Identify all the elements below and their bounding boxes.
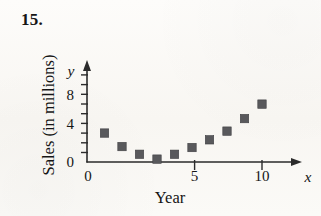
x-tick-label-5: 5 <box>191 168 199 184</box>
data-point <box>205 136 213 144</box>
y-tick-label-4: 4 <box>67 116 75 132</box>
data-point <box>258 100 266 108</box>
data-point <box>100 129 108 137</box>
data-point <box>135 150 143 158</box>
data-point <box>223 127 231 135</box>
x-tick-label-0: 0 <box>84 168 92 184</box>
y-tick-label-0: 0 <box>67 154 75 170</box>
y-tick-labels: 0 4 8 <box>67 87 75 171</box>
x-tick-labels: 0 5 10 <box>84 168 269 184</box>
x-axis-arrowhead <box>291 158 302 166</box>
scatter-plot: 0 4 8 0 5 10 y x <box>0 0 321 216</box>
data-point-markers <box>100 100 266 163</box>
page-canvas: 15. Sales (in millions) <box>0 0 321 216</box>
data-point <box>188 143 196 151</box>
x-tick-label-10: 10 <box>255 168 270 184</box>
data-point <box>153 155 161 163</box>
data-point <box>170 150 178 158</box>
x-axis-variable-label: x <box>304 168 312 185</box>
x-axis-title: Year <box>115 188 225 208</box>
data-point <box>240 114 248 122</box>
data-point <box>118 142 126 150</box>
plot-svg: 0 4 8 0 5 10 y x <box>0 0 321 216</box>
y-axis-variable-label: y <box>66 62 75 79</box>
y-tick-label-8: 8 <box>67 87 75 103</box>
y-axis-arrowhead <box>83 60 91 71</box>
